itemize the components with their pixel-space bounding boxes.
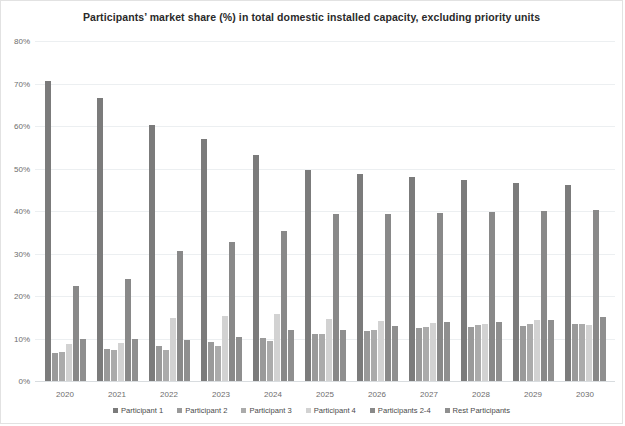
- bar: [163, 350, 169, 381]
- bar: [586, 325, 592, 381]
- bar: [409, 177, 415, 381]
- bar: [156, 346, 162, 381]
- bar: [326, 319, 332, 381]
- bar: [520, 326, 526, 381]
- y-axis-tick-label: 80%: [14, 37, 30, 46]
- bar: [125, 279, 131, 381]
- bar: [593, 210, 599, 381]
- bar: [111, 350, 117, 381]
- x-axis-tick-label: 2027: [420, 390, 438, 399]
- legend-swatch-icon: [445, 408, 450, 413]
- plot-area: 0%10%20%30%40%50%60%70%80% 2020202120222…: [35, 41, 615, 381]
- y-axis-tick-label: 70%: [14, 79, 30, 88]
- legend-swatch-icon: [306, 408, 311, 413]
- bar: [118, 343, 124, 381]
- bar: [149, 125, 155, 381]
- bar-group: 2026: [351, 41, 403, 381]
- y-axis-tick-label: 50%: [14, 164, 30, 173]
- bar: [385, 214, 391, 381]
- y-axis-tick-label: 30%: [14, 249, 30, 258]
- bar: [184, 340, 190, 381]
- bar-group: 2029: [507, 41, 559, 381]
- bar-group: 2028: [455, 41, 507, 381]
- x-axis-tick-label: 2030: [576, 390, 594, 399]
- x-axis-tick-label: 2020: [56, 390, 74, 399]
- bar: [357, 174, 363, 381]
- bar: [482, 324, 488, 381]
- bar: [305, 170, 311, 381]
- legend-item[interactable]: Participant 3: [241, 406, 291, 415]
- x-axis-tick-label: 2028: [472, 390, 490, 399]
- x-axis-tick-label: 2024: [264, 390, 282, 399]
- bar: [572, 324, 578, 381]
- bar: [548, 320, 554, 381]
- bar: [416, 328, 422, 381]
- bar: [132, 339, 138, 381]
- bar: [364, 331, 370, 381]
- bar: [444, 322, 450, 381]
- bar: [513, 183, 519, 381]
- legend-item[interactable]: Participants 2-4: [370, 406, 431, 415]
- y-axis-tick-label: 20%: [14, 292, 30, 301]
- legend-label: Participant 3: [249, 406, 291, 415]
- bar: [527, 324, 533, 381]
- legend-item[interactable]: Participant 2: [177, 406, 227, 415]
- y-axis-tick-label: 0%: [18, 377, 30, 386]
- bar: [534, 320, 540, 381]
- legend-swatch-icon: [177, 408, 182, 413]
- x-axis-tick-label: 2026: [368, 390, 386, 399]
- bar-groups: 2020202120222023202420252026202720282029…: [35, 41, 615, 381]
- bar: [565, 185, 571, 381]
- bar: [229, 242, 235, 381]
- legend-label: Participant 1: [121, 406, 163, 415]
- bar: [215, 346, 221, 381]
- bar: [600, 317, 606, 381]
- bar: [80, 339, 86, 381]
- bar: [59, 352, 65, 381]
- bar-group: 2021: [91, 41, 143, 381]
- legend-item[interactable]: Participant 4: [306, 406, 356, 415]
- bar: [97, 98, 103, 381]
- bar: [468, 327, 474, 381]
- legend-label: Participants 2-4: [378, 406, 431, 415]
- bar: [496, 322, 502, 382]
- x-axis-tick-label: 2025: [316, 390, 334, 399]
- legend-item[interactable]: Participant 1: [113, 406, 163, 415]
- y-axis-tick-label: 60%: [14, 122, 30, 131]
- bar-group: 2030: [559, 41, 611, 381]
- legend-swatch-icon: [113, 408, 118, 413]
- legend-label: Participant 2: [185, 406, 227, 415]
- y-axis-tick-label: 10%: [14, 334, 30, 343]
- bar: [319, 334, 325, 381]
- chart-container: Participants’ market share (%) in total …: [0, 0, 623, 424]
- bar-group: 2020: [39, 41, 91, 381]
- bar: [45, 81, 51, 381]
- bar: [177, 251, 183, 381]
- bar: [208, 342, 214, 381]
- x-axis-tick-label: 2029: [524, 390, 542, 399]
- bar: [267, 341, 273, 381]
- bar: [475, 325, 481, 381]
- bar: [201, 139, 207, 381]
- bar: [437, 213, 443, 381]
- bar: [489, 212, 495, 381]
- bar: [461, 180, 467, 381]
- bar: [423, 327, 429, 381]
- bar: [104, 349, 110, 381]
- bar-group: 2025: [299, 41, 351, 381]
- bar: [392, 326, 398, 381]
- legend-label: Rest Participants: [453, 406, 510, 415]
- bar-group: 2027: [403, 41, 455, 381]
- legend-item[interactable]: Rest Participants: [445, 406, 510, 415]
- legend-swatch-icon: [241, 408, 246, 413]
- bar-group: 2023: [195, 41, 247, 381]
- bar: [52, 353, 58, 381]
- bar-group: 2022: [143, 41, 195, 381]
- x-axis-tick-label: 2023: [212, 390, 230, 399]
- y-axis-tick-label: 40%: [14, 207, 30, 216]
- bar: [288, 330, 294, 381]
- bar: [430, 323, 436, 381]
- x-axis-tick-label: 2022: [160, 390, 178, 399]
- x-axis-tick-label: 2021: [108, 390, 126, 399]
- bar: [281, 231, 287, 381]
